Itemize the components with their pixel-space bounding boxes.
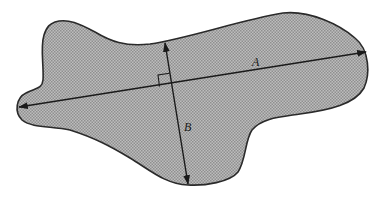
shape-diagram-svg <box>0 0 383 198</box>
axis-a-label: A <box>252 56 259 68</box>
axis-b-label: B <box>184 121 191 133</box>
diagram: A B <box>0 0 383 198</box>
